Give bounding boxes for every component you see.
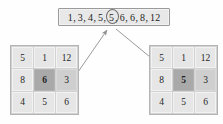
grid-right-cell-0-0: 5 <box>151 47 172 68</box>
grid-left-cell-2-0: 4 <box>12 92 33 113</box>
grid-right-cell-1-0: 8 <box>151 69 172 90</box>
grid-right-cell-2-2: 6 <box>195 92 216 113</box>
grid-left-cell-0-1: 1 <box>34 47 55 68</box>
list-token-5: 6 <box>119 12 125 23</box>
grid-right-cell-1-1-highlight: 5 <box>173 69 194 90</box>
grid-left: 5 1 12 8 6 3 4 5 6 <box>10 45 79 115</box>
grid-right-cell-2-0: 4 <box>151 92 172 113</box>
list-token-4-circled: 5 <box>108 12 115 23</box>
grid-left-cell-1-1-highlight: 6 <box>34 69 55 90</box>
grid-right-cell-1-2: 3 <box>195 69 216 90</box>
grid-left-cell-0-0: 5 <box>12 47 33 68</box>
grid-left-cell-1-2: 3 <box>56 69 77 90</box>
arrow-left-grid-to-list <box>78 30 107 72</box>
list-token-0: 1 <box>67 12 73 23</box>
sorted-list-values: 1,3,4,5,5,6,6,8,12 <box>67 12 160 23</box>
grid-left-cell-0-2: 12 <box>56 47 77 68</box>
list-token-8: 12 <box>150 12 161 23</box>
list-token-7: 8 <box>140 12 146 23</box>
grid-right-cell-2-1: 5 <box>173 92 194 113</box>
grid-left-cell-2-1: 5 <box>34 92 55 113</box>
list-token-6: 6 <box>129 12 135 23</box>
diagram-canvas: 1,3,4,5,5,6,6,8,12 5 1 12 8 6 3 4 5 6 5 … <box>0 0 223 124</box>
list-token-1: 3 <box>77 12 83 23</box>
list-token-3: 5 <box>98 12 104 23</box>
grid-left-cell-2-2: 6 <box>56 92 77 113</box>
list-token-2: 4 <box>88 12 94 23</box>
grid-left-cell-1-0: 8 <box>12 69 33 90</box>
grid-right-cell-0-2: 12 <box>195 47 216 68</box>
grid-right-cell-0-1: 1 <box>173 47 194 68</box>
grid-right: 5 1 12 8 5 3 4 5 6 <box>149 45 218 115</box>
sorted-list-box: 1,3,4,5,5,6,6,8,12 <box>58 8 170 26</box>
